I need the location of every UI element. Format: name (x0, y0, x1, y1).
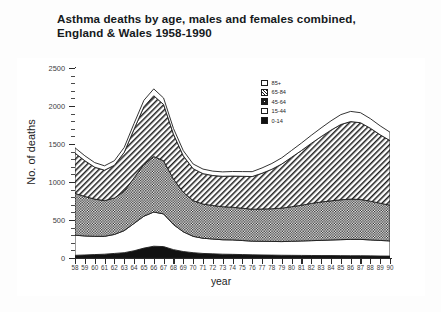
x-axis-tick (173, 259, 174, 264)
x-axis-tick (124, 259, 125, 264)
x-axis-tick (75, 259, 76, 264)
legend-swatch-icon (261, 117, 268, 124)
y-axis-tick-label: 0 (25, 254, 65, 263)
chart-title-line-1: Asthma deaths by age, males and females … (57, 12, 427, 26)
x-axis-tick (311, 259, 312, 264)
chart-frame: No. of deaths 05001000150020002500 (17, 58, 425, 296)
legend-label: 45-64 (272, 99, 286, 105)
legend-item-45-64: 45-64 (261, 98, 286, 106)
legend-swatch-icon (261, 89, 268, 96)
x-axis-tick (223, 259, 224, 264)
x-axis-tick (144, 259, 145, 264)
x-axis-tick (183, 259, 184, 264)
x-axis-tick (164, 259, 165, 264)
x-axis-tick (114, 259, 115, 264)
legend-label: 65-84 (272, 89, 286, 95)
x-axis-tick (213, 259, 214, 264)
legend-item-85+: 85+ (261, 79, 286, 87)
x-axis-tick (321, 259, 322, 264)
legend-item-65-84: 65-84 (261, 88, 286, 96)
x-axis-tick (272, 259, 273, 264)
x-axis-tick (292, 259, 293, 264)
x-axis-tick (134, 259, 135, 264)
x-axis-tick (193, 259, 194, 264)
legend-swatch-icon (261, 108, 268, 115)
chart-title-line-2: England & Wales 1958-1990 (57, 26, 427, 40)
x-axis-tick (360, 259, 361, 264)
y-axis-tick-label: 1500 (25, 140, 65, 149)
x-axis-title: year (17, 276, 425, 287)
y-axis-title: No. of deaths (25, 72, 37, 232)
x-axis-tick (351, 259, 352, 264)
x-axis-tick (203, 259, 204, 264)
x-axis-tick (262, 259, 263, 264)
chart-page: Asthma deaths by age, males and females … (0, 0, 441, 312)
x-axis-tick (105, 259, 106, 264)
x-axis-tick (154, 259, 155, 264)
y-axis-tick-label: 2500 (25, 64, 65, 73)
plot-area: 85+65-8445-6415-440-14 (75, 68, 390, 258)
legend-label: 15-44 (272, 108, 286, 114)
y-axis-tick-label: 500 (25, 216, 65, 225)
x-axis-tick (331, 259, 332, 264)
legend-item-0-14: 0-14 (261, 117, 286, 125)
legend-label: 85+ (272, 80, 282, 86)
legend-label: 0-14 (272, 118, 283, 124)
x-axis-tick (252, 259, 253, 264)
legend-swatch-icon (261, 80, 268, 87)
x-axis-tick (390, 259, 391, 264)
chart-title: Asthma deaths by age, males and females … (57, 12, 427, 40)
chart-legend: 85+65-8445-6415-440-14 (261, 79, 286, 125)
legend-item-15-44: 15-44 (261, 107, 286, 115)
x-axis-tick (95, 259, 96, 264)
x-axis-tick (301, 259, 302, 264)
legend-swatch-icon (261, 98, 268, 105)
y-axis-tick-label: 1000 (25, 178, 65, 187)
stacked-area-series (75, 68, 390, 258)
x-axis-tick (341, 259, 342, 264)
x-axis-tick (370, 259, 371, 264)
x-axis-tick (85, 259, 86, 264)
x-axis-tick-label: 90 (382, 264, 398, 271)
x-axis-tick (233, 259, 234, 264)
x-axis-tick (380, 259, 381, 264)
y-axis-tick-label: 2000 (25, 102, 65, 111)
x-axis-tick (282, 259, 283, 264)
x-axis-tick (242, 259, 243, 264)
